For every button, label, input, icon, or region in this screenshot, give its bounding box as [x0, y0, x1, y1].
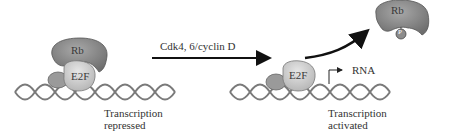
caption-right-line1: Transcription	[328, 107, 387, 119]
rb-e2f-diagram: Rb E2F Cdk4, 6/cyclin D E2F RNA Rb P Tra…	[0, 0, 450, 137]
caption-right-line2: activated	[328, 119, 368, 131]
e2f-label-left: E2F	[71, 70, 89, 82]
rna-label: RNA	[352, 64, 375, 76]
release-arrow	[305, 32, 366, 58]
rb-label-left: Rb	[71, 44, 84, 56]
transition-label: Cdk4, 6/cyclin D	[160, 40, 235, 52]
rb-label-released: Rb	[391, 4, 404, 16]
phosphate-label: P	[398, 28, 402, 36]
transcription-start-arrow	[329, 70, 342, 84]
caption-left-line2: repressed	[104, 119, 146, 131]
e2f-label-right: E2F	[289, 69, 307, 81]
caption-left-line1: Transcription	[104, 107, 163, 119]
dna-helix-left	[15, 85, 175, 100]
